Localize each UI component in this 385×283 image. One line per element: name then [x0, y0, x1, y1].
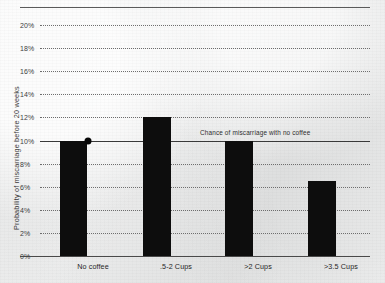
x-tick-label-over-3-5: >3.5 Cups: [324, 262, 358, 271]
y-tick-label-4: 4%: [20, 206, 54, 213]
gridline-18: [40, 48, 370, 49]
gridline-20: [40, 25, 370, 26]
gridline-12: [40, 117, 370, 118]
plot-area: Chance of miscarriage with no coffee: [40, 25, 370, 256]
reference-line-label: Chance of miscarriage with no coffee: [200, 129, 310, 136]
gridline-8: [40, 164, 370, 165]
reference-marker-dot: [85, 137, 92, 144]
y-tick-label-18: 18%: [20, 45, 54, 52]
y-tick-label-16: 16%: [20, 68, 54, 75]
bar-no-coffee: [60, 141, 87, 257]
x-tick-label-half-to-2: .5-2 Cups: [160, 262, 192, 271]
gridline-14: [40, 94, 370, 95]
chart-container: Probability of miscarriage before 20 wee…: [0, 0, 385, 283]
x-tick-label-no-coffee: No coffee: [77, 262, 109, 271]
y-tick-label-14: 14%: [20, 91, 54, 98]
y-tick-label-20: 20%: [20, 22, 54, 29]
y-tick-label-10: 10%: [20, 137, 54, 144]
bar-over-3-5-cups: [308, 181, 336, 256]
x-axis-line: [20, 256, 370, 257]
y-tick-label-6: 6%: [20, 183, 54, 190]
y-tick-label-8: 8%: [20, 160, 54, 167]
top-divider-rule: [20, 7, 370, 8]
y-tick-label-2: 2%: [20, 229, 54, 236]
bar-half-to-2-cups: [143, 117, 171, 256]
x-tick-label-over-2: >2 Cups: [244, 262, 272, 271]
bar-over-2-cups: [225, 141, 253, 257]
y-tick-label-12: 12%: [20, 114, 54, 121]
gridline-16: [40, 71, 370, 72]
